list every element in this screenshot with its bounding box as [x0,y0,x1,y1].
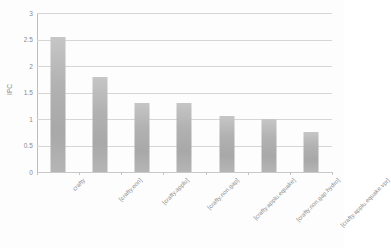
x-axis-tick-label: [crafty.non.gap] [206,177,240,211]
x-axis-tick-label: [crafty.eon] [118,177,144,203]
x-axis-tick-label: [crafty.applu.equake] [252,177,297,222]
x-axis-tick-label: [crafty.applu.equake.vpr] [339,177,391,229]
x-axis-tick-label: [crafty.applu] [161,177,190,206]
x-axis-tick-label: [crafty.non.gap.hydro] [295,177,341,223]
x-axis-tick-label: crafty [71,177,87,193]
